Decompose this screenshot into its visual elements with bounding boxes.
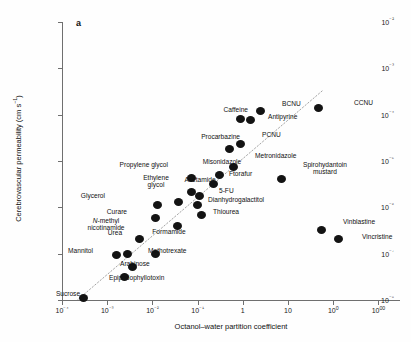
data-point-label: CCNU [354, 99, 373, 106]
x-tick-label: 10⁻¹ [191, 307, 204, 314]
data-point-label: PCNU [262, 131, 281, 138]
data-point-marker [174, 198, 183, 206]
y-axis-title-exponent: −1 [12, 98, 18, 104]
data-point-marker [112, 251, 121, 259]
y-tick-mark [58, 115, 63, 116]
data-point-label: Urea [108, 229, 122, 236]
x-axis-title: Octanol–water partition coefficient [62, 322, 400, 331]
y-tick-label: 10⁻³ [381, 65, 394, 72]
data-point-label: Propylene glycol [120, 161, 168, 168]
data-point-marker [215, 171, 224, 179]
x-tick-label: 10⁻⁴ [55, 307, 68, 314]
data-point-marker [123, 250, 132, 258]
y-axis-title-text: Cerebrovascular permeability (cm s [14, 104, 23, 222]
data-point-label: Formamide [152, 228, 185, 235]
data-point-marker [225, 145, 234, 153]
x-tick-mark [243, 300, 244, 305]
x-tick-label: 1000 [372, 307, 386, 314]
y-tick-mark [58, 68, 63, 69]
x-tick-label: 10 [284, 307, 292, 314]
x-tick-label: 10⁻² [146, 307, 159, 314]
data-point-marker [229, 163, 238, 171]
x-tick-label: 100 [328, 307, 339, 314]
x-axis-line [62, 300, 400, 301]
data-point-label: Metronidazole [255, 152, 296, 159]
data-point-label: Mannitol [68, 247, 93, 254]
data-point-label: Epipodophyllotoxin [109, 274, 164, 281]
data-point-marker [151, 214, 160, 222]
y-tick-mark [58, 254, 63, 255]
y-tick-label: 10⁻⁸ [381, 297, 394, 304]
y-tick-label: 10⁻⁷ [381, 250, 394, 257]
x-tick-label: 1 [241, 307, 245, 314]
data-point-marker [236, 115, 245, 123]
data-point-label: Thiourea [213, 208, 239, 215]
data-point-marker [314, 104, 323, 112]
data-point-label: 5-FU [219, 187, 234, 194]
data-point-label: Ethylene glycol [143, 174, 169, 189]
y-tick-label: 10⁻⁵ [381, 158, 394, 165]
y-tick-mark [58, 207, 63, 208]
data-point-marker [334, 235, 343, 243]
data-point-label: Vinblastine [343, 218, 375, 225]
data-point-marker [135, 235, 144, 243]
data-point-marker [193, 201, 202, 209]
x-tick-mark [288, 300, 289, 305]
x-tick-mark [333, 300, 334, 305]
data-point-label: Sucrose [56, 290, 80, 297]
data-point-label: Procarbazine [201, 133, 240, 140]
data-point-marker [197, 211, 206, 219]
data-point-marker [277, 175, 286, 183]
data-point-label: BCNU [282, 100, 301, 107]
y-tick-mark [58, 161, 63, 162]
data-point-marker [153, 201, 162, 209]
y-tick-label: 10⁻⁴ [381, 111, 394, 118]
plot-area: 10⁻²10⁻³10⁻⁴10⁻⁵10⁻⁶10⁻⁷10⁻⁸ 10⁻⁴10⁻³10⁻… [62, 22, 400, 300]
data-point-marker [317, 226, 326, 234]
data-point-label: Spirohydantoin mustard [303, 161, 347, 176]
data-point-label: Dianhydrogalactitol [208, 196, 264, 203]
data-point-marker [246, 116, 255, 124]
y-tick-mark [58, 22, 63, 23]
data-point-label: Caffeine [224, 106, 248, 113]
figure-panel: a 10⁻²10⁻³10⁻⁴10⁻⁵10⁻⁶10⁻⁷10⁻⁸ 10⁻⁴10⁻³1… [0, 0, 411, 342]
data-point-marker [195, 192, 204, 200]
data-point-marker [209, 180, 218, 188]
data-point-label: Arabinose [120, 260, 150, 267]
data-point-marker [256, 107, 265, 115]
data-point-label: Methotrexate [148, 247, 186, 254]
data-point-label: Vincristine [362, 233, 392, 240]
data-point-label: Glycerol [81, 192, 105, 199]
y-axis-title-tail: ) [14, 95, 23, 98]
y-tick-label: 10⁻² [381, 19, 394, 26]
data-point-label: Antipyrine [268, 113, 297, 120]
x-tick-label: 10⁻³ [101, 307, 114, 314]
data-point-label: Ftorafur [229, 170, 252, 177]
y-tick-label: 10⁻⁶ [381, 204, 394, 211]
data-point-marker [236, 140, 245, 148]
y-axis-title: Cerebrovascular permeability (cm s−1) [14, 59, 23, 259]
data-point-label: Curare [107, 208, 127, 215]
